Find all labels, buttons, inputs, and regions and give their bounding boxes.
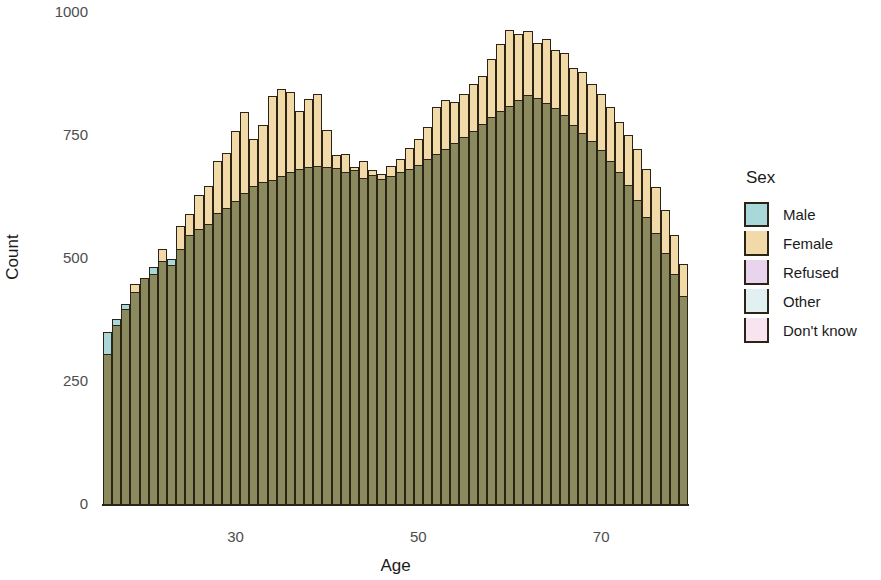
y-tick-label-750: 750 bbox=[0, 126, 88, 143]
bar-segment-overlap bbox=[277, 176, 286, 505]
bar-segment-female bbox=[204, 186, 213, 224]
legend-item[interactable]: Male bbox=[744, 200, 879, 229]
bar-segment-overlap bbox=[213, 213, 222, 505]
legend-swatch-other bbox=[744, 289, 769, 314]
bar-segment-male bbox=[112, 319, 121, 326]
histogram-bar bbox=[423, 127, 432, 505]
bar-segment-overlap bbox=[140, 278, 149, 505]
bar-segment-female bbox=[350, 167, 359, 172]
bar-segment-overlap bbox=[624, 185, 633, 505]
histogram-bar bbox=[514, 34, 523, 505]
bar-segment-overlap bbox=[496, 111, 505, 505]
histogram-bar bbox=[432, 107, 441, 505]
bar-segment-overlap bbox=[158, 261, 167, 505]
histogram-bar bbox=[377, 174, 386, 505]
histogram-bar bbox=[459, 94, 468, 505]
bar-segment-female bbox=[560, 53, 569, 116]
bar-segment-female bbox=[377, 174, 386, 180]
x-tick-label-50: 50 bbox=[378, 528, 458, 545]
histogram-bar bbox=[679, 264, 688, 505]
histogram-bar bbox=[368, 170, 377, 505]
bar-segment-female bbox=[231, 131, 240, 202]
bar-segment-overlap bbox=[359, 178, 368, 505]
histogram-bar bbox=[332, 155, 341, 505]
bar-segment-female bbox=[386, 166, 395, 178]
bar-segment-female bbox=[286, 92, 295, 174]
bar-segment-female bbox=[578, 72, 587, 134]
bar-segment-overlap bbox=[423, 159, 432, 505]
bar-segment-overlap bbox=[523, 95, 532, 505]
bar-segment-overlap bbox=[268, 180, 277, 505]
legend-item[interactable]: Refused bbox=[744, 258, 879, 287]
bar-segment-overlap bbox=[204, 224, 213, 505]
bar-segment-male bbox=[121, 304, 130, 310]
bar-segment-female bbox=[322, 130, 331, 167]
histogram-bar bbox=[542, 39, 551, 505]
legend-item-label: Female bbox=[783, 235, 833, 252]
bar-segment-female bbox=[405, 148, 414, 171]
bar-segment-female bbox=[414, 139, 423, 166]
bar-segment-female bbox=[268, 96, 277, 182]
bar-segment-overlap bbox=[231, 201, 240, 505]
histogram-bar bbox=[158, 249, 167, 505]
bar-segment-overlap bbox=[459, 137, 468, 505]
histogram-bars bbox=[103, 13, 688, 505]
bar-segment-overlap bbox=[414, 165, 423, 505]
bar-segment-overlap bbox=[533, 98, 542, 505]
bar-segment-overlap bbox=[670, 274, 679, 505]
bar-segment-overlap bbox=[176, 249, 185, 505]
bar-segment-female bbox=[487, 59, 496, 118]
histogram-bar bbox=[313, 94, 322, 505]
histogram-bar bbox=[569, 68, 578, 505]
bar-segment-female bbox=[313, 94, 322, 167]
histogram-bar bbox=[587, 84, 596, 505]
legend-item[interactable]: Don't know bbox=[744, 316, 879, 345]
histogram-bar bbox=[176, 226, 185, 505]
legend-swatch-female bbox=[744, 231, 769, 256]
histogram-bar bbox=[414, 139, 423, 505]
bar-segment-overlap bbox=[587, 141, 596, 505]
bar-segment-overlap bbox=[313, 166, 322, 505]
legend-item-label: Refused bbox=[783, 264, 839, 281]
histogram-bar bbox=[478, 76, 487, 505]
bar-segment-overlap bbox=[478, 124, 487, 505]
bar-segment-female bbox=[661, 210, 670, 254]
bar-segment-female bbox=[277, 89, 286, 178]
bar-segment-overlap bbox=[679, 296, 688, 505]
legend-item[interactable]: Other bbox=[744, 287, 879, 316]
bar-segment-overlap bbox=[441, 149, 450, 505]
histogram-bar bbox=[578, 72, 587, 505]
bar-segment-overlap bbox=[405, 169, 414, 505]
bar-segment-overlap bbox=[341, 172, 350, 505]
y-tick-label-0: 0 bbox=[0, 495, 88, 512]
bar-segment-overlap bbox=[295, 169, 304, 505]
bar-segment-female bbox=[304, 99, 313, 168]
histogram-bar bbox=[551, 50, 560, 505]
bar-segment-overlap bbox=[560, 115, 569, 505]
bar-segment-male bbox=[149, 267, 158, 275]
bar-segment-overlap bbox=[240, 193, 249, 505]
bar-segment-overlap bbox=[185, 235, 194, 505]
bar-segment-overlap bbox=[633, 200, 642, 505]
histogram-bar bbox=[597, 94, 606, 505]
bar-segment-overlap bbox=[304, 167, 313, 505]
bar-segment-overlap bbox=[597, 150, 606, 505]
bar-segment-overlap bbox=[112, 325, 121, 505]
bar-segment-female bbox=[615, 122, 624, 173]
bar-segment-female bbox=[295, 111, 304, 170]
bar-segment-overlap bbox=[551, 108, 560, 505]
bar-segment-female bbox=[642, 169, 651, 218]
histogram-bar bbox=[213, 161, 222, 505]
histogram-bar bbox=[204, 186, 213, 505]
histogram-bar bbox=[258, 125, 267, 505]
histogram-bar bbox=[322, 130, 331, 505]
bar-segment-overlap bbox=[450, 143, 459, 505]
legend-item[interactable]: Female bbox=[744, 229, 879, 258]
histogram-bar bbox=[149, 267, 158, 505]
bar-segment-female bbox=[551, 50, 560, 109]
histogram-bar bbox=[231, 131, 240, 505]
y-tick-label-1000: 1000 bbox=[0, 3, 88, 20]
chart-figure: Count 0 250 500 750 1000 30 50 70 Age Se… bbox=[0, 0, 881, 580]
histogram-bar bbox=[661, 210, 670, 505]
legend-item-label: Male bbox=[783, 206, 816, 223]
